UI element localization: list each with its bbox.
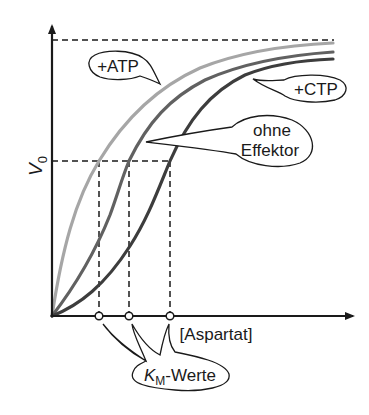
km-label-main: K	[144, 366, 156, 385]
km-label-sub: M	[155, 374, 165, 388]
km-marker-ohne	[125, 312, 133, 320]
km-label-suffix: -Werte	[165, 366, 216, 385]
diagram-canvas: V0 [Aspartat] +ATP +CTP ohne Effektor KM…	[0, 0, 369, 415]
km-marker-atp	[95, 312, 103, 320]
bubble-ctp-label: +CTP	[294, 80, 338, 99]
km-marker-ctp	[166, 312, 174, 320]
x-axis-label: [Aspartat]	[180, 325, 253, 344]
bubble-atp: +ATP	[89, 51, 160, 84]
svg-text:V0: V0	[25, 156, 50, 176]
bubble-ohne-line1: ohne	[253, 121, 291, 140]
bubble-ohne-line2: Effektor	[241, 141, 300, 160]
y-label-sub: 0	[35, 156, 50, 163]
bubble-ctp: +CTP	[253, 75, 346, 102]
km-label: KM-Werte	[144, 366, 216, 388]
enzyme-kinetics-diagram: V0 [Aspartat] +ATP +CTP ohne Effektor KM…	[0, 0, 369, 415]
bubble-atp-label: +ATP	[97, 57, 139, 76]
y-axis-label: V0	[25, 156, 50, 176]
